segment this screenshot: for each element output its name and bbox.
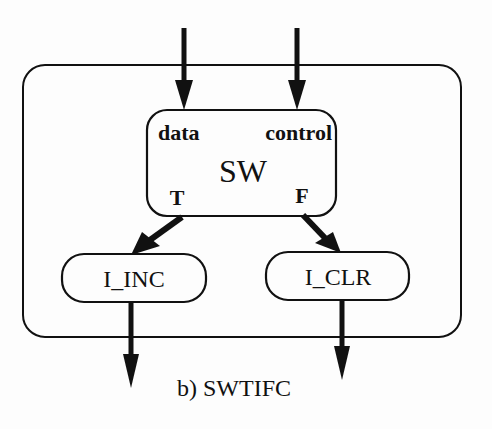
diagram-canvas: data control SW T F I_INC I_CLR: [0, 0, 492, 429]
i-inc-node: I_INC: [62, 254, 206, 302]
data-input-arrow: [175, 28, 193, 110]
true-branch-arrow: [131, 217, 182, 255]
false-branch-arrow: [303, 215, 341, 253]
figure-caption: b) SWTIFC: [177, 375, 291, 401]
false-output-label: F: [295, 183, 308, 208]
control-input-arrow: [288, 28, 306, 110]
i-clr-output-arrow: [334, 300, 350, 380]
outer-container-box: [23, 65, 461, 337]
switch-node: data control SW T F: [147, 110, 336, 216]
i-clr-label: I_CLR: [305, 264, 372, 290]
i-inc-label: I_INC: [103, 266, 164, 292]
true-output-label: T: [170, 185, 185, 210]
i-inc-output-arrow: [123, 302, 139, 388]
i-clr-node: I_CLR: [266, 252, 409, 300]
switch-title: SW: [219, 153, 268, 189]
control-input-label: control: [265, 120, 332, 145]
diagram-svg: data control SW T F I_INC I_CLR: [0, 0, 492, 429]
data-input-label: data: [158, 120, 200, 145]
